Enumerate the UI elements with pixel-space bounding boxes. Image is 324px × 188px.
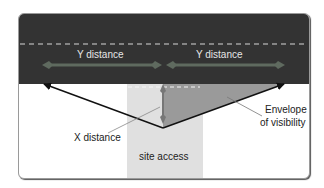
x-distance-label: X distance — [74, 132, 121, 143]
envelope-label-line2: of visibility — [260, 117, 306, 128]
y-distance-label-right: Y distance — [196, 49, 243, 60]
y-distance-arrow-right — [166, 61, 285, 69]
site-access-label: site access — [139, 151, 188, 162]
y-distance-label-left: Y distance — [77, 49, 124, 60]
y-distance-arrow-left — [42, 61, 162, 69]
sight-line-left — [44, 84, 163, 128]
envelope-label-line1: Envelope — [265, 104, 307, 115]
envelope-leader — [227, 97, 262, 116]
